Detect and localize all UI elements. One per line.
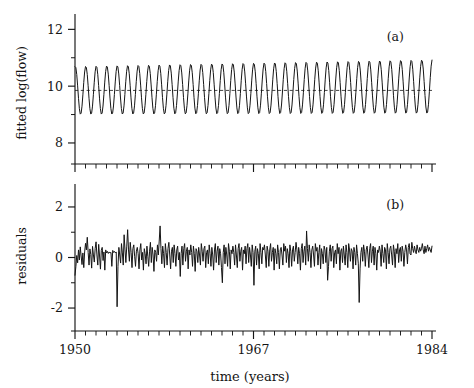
chart-canvas: 81012 fitted log(flow) (a) -202 19501967… — [0, 0, 474, 388]
panel-a-tag: (a) — [387, 29, 404, 44]
panel-b: -202 195019671984 residuals (b) — [14, 184, 448, 357]
panel-b-y-axis-title: residuals — [14, 227, 29, 285]
panel-b-x-tick-labels: 195019671984 — [59, 342, 448, 357]
panel-a-axes — [68, 14, 436, 172]
x-tick-label: 1967 — [238, 342, 270, 357]
y-tick-label: 2 — [55, 199, 63, 214]
x-axis-title: time (years) — [210, 369, 289, 384]
panel-b-y-ticks — [68, 207, 75, 308]
y-tick-label: -2 — [51, 300, 63, 315]
panel-b-residual-series-line — [75, 226, 432, 307]
panel-a-y-axis-title: fitted log(flow) — [14, 46, 29, 140]
panel-a-y-tick-labels: 81012 — [47, 22, 63, 151]
x-tick-label: 1984 — [416, 342, 448, 357]
y-tick-label: 12 — [47, 22, 63, 37]
y-tick-label: 10 — [47, 79, 63, 94]
panel-b-tag: (b) — [386, 197, 404, 212]
panel-b-y-tick-labels: -202 — [51, 199, 63, 315]
panel-a-x-ticks — [75, 164, 432, 172]
panel-b-x-ticks — [75, 331, 432, 339]
figure-root: 81012 fitted log(flow) (a) -202 19501967… — [0, 0, 474, 388]
x-tick-label: 1950 — [59, 342, 91, 357]
panel-a: 81012 fitted log(flow) (a) — [14, 14, 436, 172]
panel-a-y-ticks — [68, 29, 75, 143]
y-tick-label: 8 — [55, 135, 63, 150]
panel-a-fitted-series-line — [75, 60, 432, 114]
y-tick-label: 0 — [55, 250, 63, 265]
